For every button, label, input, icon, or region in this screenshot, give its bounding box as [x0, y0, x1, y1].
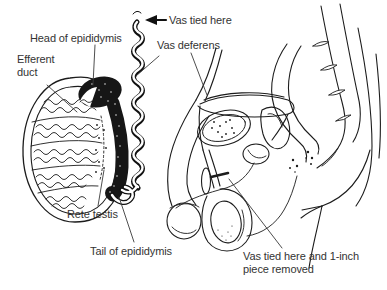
vas-tie-mark	[211, 173, 228, 177]
scrotum	[202, 189, 252, 251]
label-vas-tied-removed: Vas tied here and 1-inch piece removed	[243, 250, 379, 275]
perineum-line	[247, 176, 297, 236]
label-tail-of-epididymis: Tail of epididymis	[90, 245, 172, 258]
rete-testis-detail	[95, 116, 107, 180]
epididymis	[75, 72, 125, 200]
prostate	[243, 144, 269, 164]
label-head-of-epididymis: Head of epididymis	[30, 32, 122, 45]
spermatic-cord	[203, 150, 220, 188]
label-efferent-duct: Efferent duct	[17, 53, 69, 78]
label-rete-testis: Rete testis	[67, 208, 118, 221]
back-buttock-outline	[301, 28, 380, 268]
sacrum-spine	[313, 4, 360, 168]
label-vas-deferens: Vas deferens	[157, 39, 220, 52]
left-arrow-icon	[145, 15, 166, 25]
leader-rete-testis	[98, 170, 104, 206]
vasectomy-diagram: Head of epididymis Efferent duct Vas tie…	[0, 0, 387, 290]
anus-stipple	[289, 151, 313, 173]
bladder	[193, 104, 254, 152]
leader-vas-deferens-right	[191, 53, 207, 95]
label-vas-tied-here: Vas tied here	[169, 14, 232, 27]
